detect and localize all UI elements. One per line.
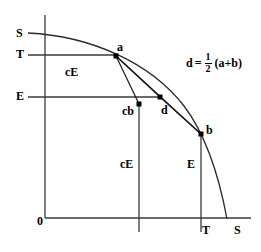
point-label-b: b <box>206 124 213 136</box>
y-axis-label-E: E <box>16 90 24 102</box>
x-axis-label-T: T <box>202 224 210 236</box>
region-label-cE-lower: cE <box>120 158 133 170</box>
formula-denominator: 2 <box>205 64 212 75</box>
point-label-a: a <box>117 41 123 53</box>
formula-fraction: 1 2 <box>205 52 212 74</box>
y-axis-label-T: T <box>16 48 24 60</box>
formula-equals: = <box>195 56 202 71</box>
region-label-E: E <box>187 158 195 170</box>
point-marker-a <box>114 54 119 59</box>
x-axis-label-S: S <box>234 224 241 236</box>
region-label-cE-upper: cE <box>65 66 78 78</box>
diagram-canvas: S T E 0 T S a b d cb cE cE E d = 1 2 (a+… <box>0 0 261 252</box>
formula-d-midpoint: d = 1 2 (a+b) <box>186 52 242 74</box>
origin-label: 0 <box>37 215 43 227</box>
point-marker-b <box>199 132 204 137</box>
point-marker-d <box>158 95 163 100</box>
formula-numerator: 1 <box>205 52 212 63</box>
point-label-cb: cb <box>122 105 134 117</box>
formula-rhs: (a+b) <box>215 56 243 71</box>
point-label-d: d <box>161 104 168 116</box>
point-marker-cb <box>137 102 142 107</box>
formula-lhs: d <box>186 56 193 71</box>
y-axis-label-S: S <box>16 27 23 39</box>
